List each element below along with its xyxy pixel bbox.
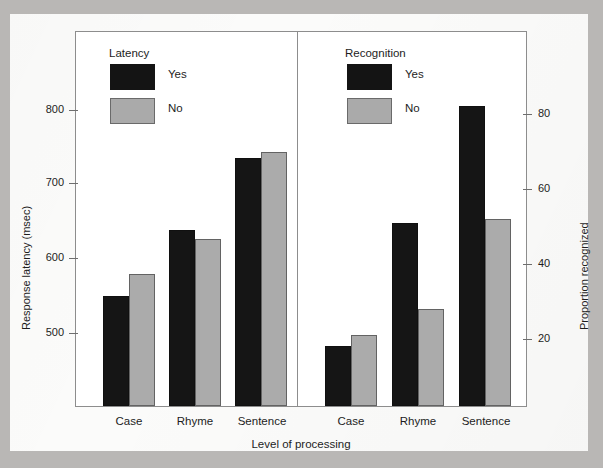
tick-label-recognition-60: 60 <box>538 182 578 194</box>
x-tick-label-recognition-case: Case <box>321 415 381 427</box>
legend-gray-swatch-recognition <box>347 98 392 124</box>
figure: Latency Yes No 500 600 700 800 Response … <box>0 0 603 468</box>
bar-latency-rhyme-no <box>195 239 221 406</box>
tick-mark-recognition-60 <box>523 189 532 190</box>
scanned-page-background: Latency Yes No 500 600 700 800 Response … <box>0 0 603 468</box>
bar-recognition-case-yes <box>325 346 351 406</box>
tick-mark-recognition-40 <box>523 264 532 265</box>
bar-latency-sentence-no <box>261 152 287 406</box>
legend-black-swatch-recognition <box>347 64 392 90</box>
legend-label-latency-no: No <box>168 102 183 114</box>
tick-label-latency-700: 700 <box>24 176 64 188</box>
legend-title-recognition: Recognition <box>345 47 406 59</box>
bar-recognition-rhyme-yes <box>392 223 418 406</box>
tick-mark-recognition-20 <box>523 339 532 340</box>
bar-recognition-sentence-no <box>485 219 511 406</box>
bar-recognition-case-no <box>351 335 377 406</box>
tick-label-recognition-80: 80 <box>538 107 578 119</box>
bar-recognition-sentence-yes <box>459 106 485 406</box>
bar-latency-sentence-yes <box>235 158 261 406</box>
legend-label-latency-yes: Yes <box>168 68 187 80</box>
legend-gray-swatch-latency <box>110 98 155 124</box>
x-tick-label-recognition-rhyme: Rhyme <box>388 415 448 427</box>
x-tick-label-recognition-sentence: Sentence <box>451 415 521 427</box>
bar-latency-case-no <box>129 274 155 406</box>
tick-label-recognition-40: 40 <box>538 257 578 269</box>
bar-latency-rhyme-yes <box>169 230 195 406</box>
x-tick-label-latency-sentence: Sentence <box>227 415 297 427</box>
legend-black-swatch-latency <box>110 64 155 90</box>
tick-mark-latency-600 <box>69 258 78 259</box>
y-axis-title-recognition: Proportion recognized <box>578 222 590 330</box>
legend-label-recognition-no: No <box>405 102 420 114</box>
bar-recognition-rhyme-no <box>418 309 444 406</box>
tick-label-recognition-20: 20 <box>538 332 578 344</box>
legend-label-recognition-yes: Yes <box>405 68 424 80</box>
tick-mark-latency-500 <box>69 333 78 334</box>
x-axis-title: Level of processing <box>201 438 401 450</box>
tick-label-latency-800: 800 <box>24 103 64 115</box>
y-axis-title-latency: Response latency (msec) <box>20 206 32 330</box>
legend-title-latency: Latency <box>109 47 149 59</box>
tick-mark-latency-700 <box>69 183 78 184</box>
tick-mark-latency-800 <box>69 110 78 111</box>
tick-mark-recognition-80 <box>523 114 532 115</box>
x-tick-label-latency-rhyme: Rhyme <box>165 415 225 427</box>
bar-latency-case-yes <box>103 296 129 406</box>
x-tick-label-latency-case: Case <box>99 415 159 427</box>
